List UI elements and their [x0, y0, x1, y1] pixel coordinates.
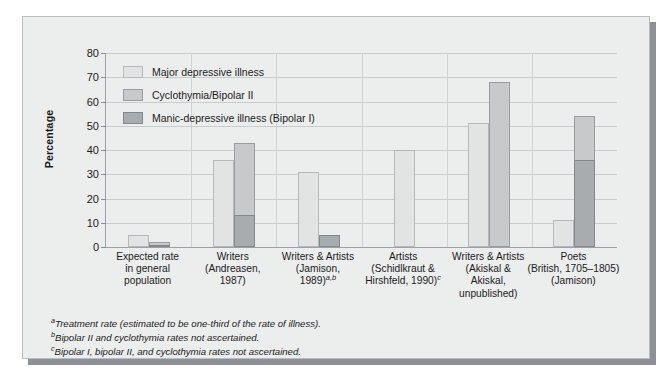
y-tick-label: 30: [87, 168, 99, 180]
legend-item[interactable]: Major depressive illness: [123, 61, 315, 82]
footnote: aTreatment rate (estimated to be one-thi…: [51, 317, 631, 331]
legend-label: Manic-depressive illness (Bipolar I): [152, 112, 315, 124]
y-axis-title: Percentage: [43, 89, 55, 189]
bar-group: [362, 53, 447, 247]
y-tick-label: 10: [87, 217, 99, 229]
chart-legend: Major depressive illnessCyclothymia/Bipo…: [123, 61, 315, 130]
footnote-marker: a,b: [326, 273, 336, 282]
bar-cyclothymia-bipolar-ii: [489, 82, 510, 247]
legend-label: Cyclothymia/Bipolar II: [152, 89, 254, 101]
bar-manic-depressive-illness-bipolar-i: [319, 235, 340, 247]
footnote-marker: c: [51, 344, 55, 353]
x-axis-label-line: Poets: [519, 251, 628, 263]
y-tick-label: 70: [87, 71, 99, 83]
chart-figure: Percentage 01020304050607080 Major depre…: [0, 0, 664, 373]
x-axis-label: Poets(British, 1705–1805)(Jamison): [519, 251, 628, 288]
group-separator: [532, 53, 533, 247]
bar-manic-depressive-illness-bipolar-i: [149, 245, 170, 247]
legend-item[interactable]: Manic-depressive illness (Bipolar I): [123, 107, 315, 128]
y-tick-label: 20: [87, 193, 99, 205]
footnote: bBipolar II and cyclothymia rates not as…: [51, 331, 631, 345]
chart-panel: Percentage 01020304050607080 Major depre…: [22, 16, 650, 359]
y-tick-label: 50: [87, 120, 99, 132]
x-axis-label-line: unpublished): [434, 288, 543, 300]
bar-major-depressive-illness: [298, 172, 319, 247]
bar-major-depressive-illness: [553, 220, 574, 247]
bar-group: [532, 53, 617, 247]
footnote: cBipolar I, bipolar II, and cyclothymia …: [51, 345, 631, 359]
footnote-marker: a: [51, 316, 55, 325]
y-tick-label: 60: [87, 96, 99, 108]
bar-group: [447, 53, 532, 247]
bar-major-depressive-illness: [394, 150, 415, 247]
legend-swatch-icon: [123, 66, 143, 78]
bar-manic-depressive-illness-bipolar-i: [574, 160, 595, 247]
x-axis-label-line: (British, 1705–1805): [519, 263, 628, 275]
bar-manic-depressive-illness-bipolar-i: [234, 215, 255, 247]
x-axis-label-line: (Jamison): [519, 275, 628, 287]
y-tick-label: 80: [87, 47, 99, 59]
footnotes: aTreatment rate (estimated to be one-thi…: [51, 317, 631, 360]
group-separator: [447, 53, 448, 247]
legend-swatch-icon: [123, 112, 143, 124]
y-tick-label: 40: [87, 144, 99, 156]
bar-major-depressive-illness: [213, 160, 234, 247]
footnote-marker: b: [51, 330, 55, 339]
y-tick-mark: [101, 247, 106, 248]
bar-major-depressive-illness: [468, 123, 489, 247]
legend-swatch-icon: [123, 89, 143, 101]
plot-wrapper: Percentage 01020304050607080 Major depre…: [23, 17, 651, 360]
x-axis-labels: Expected ratein generalpopulationWriters…: [105, 251, 616, 309]
group-separator: [362, 53, 363, 247]
legend-item[interactable]: Cyclothymia/Bipolar II: [123, 84, 315, 105]
legend-label: Major depressive illness: [152, 66, 264, 78]
bar-major-depressive-illness: [128, 235, 149, 247]
